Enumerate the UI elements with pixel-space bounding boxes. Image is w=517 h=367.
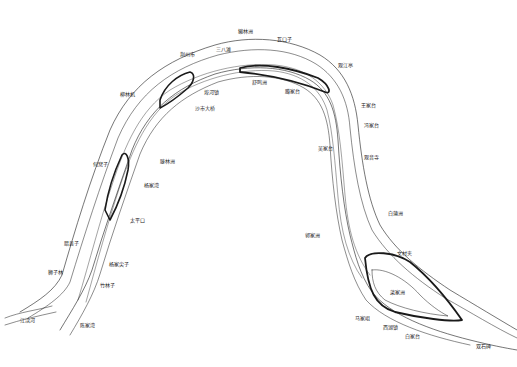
place-label: 江渎河 <box>20 318 35 323</box>
place-label: 马家咀 <box>355 316 370 321</box>
place-label: 三八滩 <box>216 47 231 52</box>
place-label: 郭家洲 <box>305 233 320 238</box>
place-label: 观音寺 <box>364 155 379 160</box>
place-label: 太平口 <box>130 218 145 223</box>
inner-bank-line <box>60 68 517 350</box>
place-label: 西湖镇 <box>383 325 398 330</box>
place-label: 沙市大桥 <box>195 106 215 111</box>
place-label: 何窝子 <box>93 162 108 167</box>
place-label: 狮子林 <box>48 270 63 275</box>
place-label: 文村夹 <box>397 251 412 256</box>
outer-bank-line <box>20 39 517 330</box>
place-label: 荆州市 <box>180 52 195 57</box>
place-label: 杨家尖子 <box>109 262 129 267</box>
place-label: 滕林洲 <box>160 159 175 164</box>
place-label: 双石碑 <box>476 344 491 349</box>
place-label: 陈家湾 <box>80 323 95 328</box>
place-label: 观江亭 <box>338 63 353 68</box>
place-label: 竹林子 <box>100 283 115 288</box>
place-label: 吴家台 <box>318 146 333 151</box>
place-label: 白家台 <box>405 334 420 339</box>
place-label: 王家台 <box>361 103 376 108</box>
place-label: 白蒲洲 <box>388 211 403 216</box>
place-label: 杨家湾 <box>144 183 159 188</box>
place-label: 柳林机 <box>120 92 135 97</box>
place-label: 埠河镇 <box>204 90 219 95</box>
place-label: 獭林洲 <box>238 29 253 34</box>
place-label: 冯家台 <box>364 123 379 128</box>
place-label: 菜家洲 <box>390 290 405 295</box>
place-label: 腾家台 <box>285 89 300 94</box>
place-label: 舒鸣洲 <box>252 80 267 85</box>
island-north <box>160 72 194 108</box>
place-label: 腊县子 <box>64 241 79 246</box>
river-map <box>0 0 517 367</box>
place-label: 瓦口子 <box>277 37 292 42</box>
